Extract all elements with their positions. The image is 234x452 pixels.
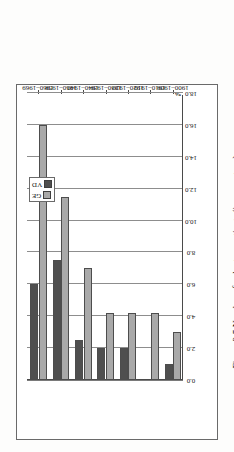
bar-group: [27, 95, 49, 380]
figure-caption: Figure 2.5 Number of voluntary patients …: [232, 84, 234, 440]
chart-frame: % 0.02.04.06.08.010.012.014.016.018.0 19…: [16, 84, 218, 440]
legend-item: VD: [32, 180, 52, 188]
bar-vd: [53, 260, 61, 380]
legend: GEVD: [29, 177, 55, 202]
bar-vd: [75, 340, 83, 380]
plot-area: [27, 95, 183, 381]
bar-vd: [30, 284, 38, 380]
bar-group: [49, 95, 71, 380]
figure-page: % 0.02.04.06.08.010.012.014.016.018.0 19…: [0, 0, 234, 452]
bar-vd: [97, 348, 105, 380]
bar-ge: [39, 125, 47, 380]
bar-group: [162, 95, 184, 380]
legend-swatch-vd: [44, 180, 52, 188]
legend-label: VD: [32, 181, 42, 188]
bar-group: [117, 95, 139, 380]
bar-group: [72, 95, 94, 380]
bar-vd: [165, 364, 173, 380]
legend-swatch-ge: [43, 191, 51, 199]
bar-ge: [61, 197, 69, 380]
rotated-figure-wrapper: % 0.02.04.06.08.010.012.014.016.018.0 19…: [0, 0, 234, 452]
bar-ge: [151, 313, 159, 380]
bar-group: [139, 95, 161, 380]
bar-ge: [173, 332, 181, 380]
legend-item: GE: [32, 191, 51, 199]
bar-ge: [128, 313, 136, 380]
gridline-18: [27, 92, 183, 93]
bar-vd: [120, 348, 128, 380]
bar-ge: [84, 268, 92, 380]
legend-label: GE: [32, 192, 41, 199]
bar-group: [94, 95, 116, 380]
bar-ge: [106, 313, 114, 380]
